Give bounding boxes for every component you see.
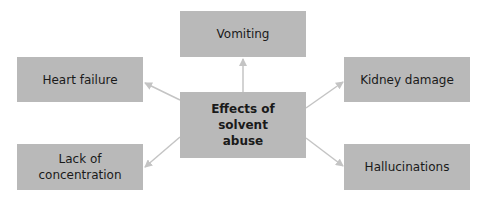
arrow-to-kidney-damage <box>306 82 343 108</box>
center-label-line-1: Effects of solvent <box>186 101 300 133</box>
arrow-to-heart-failure <box>145 83 180 100</box>
center-box: Effects of solvent abuse <box>180 92 306 158</box>
effect-label: Heart failure <box>42 72 117 88</box>
effect-box-vomiting: Vomiting <box>180 11 306 57</box>
arrow-to-lack-of-concentration <box>145 137 180 167</box>
effect-box-lack-of-concentration: Lack of concentration <box>17 144 143 190</box>
center-label-line-2: abuse <box>223 133 264 149</box>
effect-box-kidney-damage: Kidney damage <box>344 57 470 102</box>
effect-label: Hallucinations <box>365 159 450 175</box>
effect-label-line-2: concentration <box>38 167 121 183</box>
effect-label-line-1: Lack of <box>59 151 102 167</box>
effect-label: Kidney damage <box>360 72 454 88</box>
effect-label: Vomiting <box>217 26 270 42</box>
effect-box-heart-failure: Heart failure <box>17 57 143 102</box>
effect-box-hallucinations: Hallucinations <box>344 144 470 190</box>
arrow-to-hallucinations <box>306 138 343 166</box>
